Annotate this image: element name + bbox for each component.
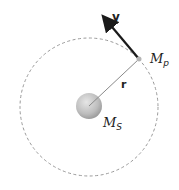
star-mass-label: MS	[103, 115, 122, 132]
star-mass-symbol: M	[103, 115, 116, 130]
radius-label: r	[121, 78, 126, 91]
velocity-arrow	[107, 21, 139, 59]
planet-mass-label: Mp	[150, 51, 169, 68]
planet-mass-symbol: M	[150, 51, 163, 66]
planet-mass-subscript: p	[163, 58, 169, 68]
orbit-diagram	[0, 0, 179, 190]
planet	[137, 57, 142, 62]
star-mass-subscript: S	[116, 122, 122, 132]
radius-line	[89, 59, 139, 106]
velocity-label: v	[112, 10, 120, 24]
